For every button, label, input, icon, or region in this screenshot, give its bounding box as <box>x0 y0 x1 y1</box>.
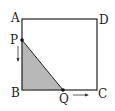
label-p: P <box>10 33 18 47</box>
label-a: A <box>10 11 20 25</box>
label-q: Q <box>59 92 69 106</box>
label-b: B <box>11 86 20 100</box>
square-diagram: A D P B Q C <box>0 0 115 111</box>
arrow-down-icon <box>17 46 20 62</box>
arrow-right-icon <box>73 94 89 97</box>
point-p <box>20 38 24 42</box>
label-c: C <box>98 87 107 101</box>
label-d: D <box>99 13 109 27</box>
